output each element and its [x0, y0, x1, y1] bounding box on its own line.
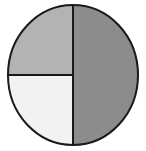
segment-right-half [73, 5, 138, 145]
fraction-circle-diagram [0, 0, 146, 151]
circle-diagram-svg [0, 0, 146, 151]
segment-lower-left-quadrant [8, 75, 73, 145]
segment-upper-left-quadrant [8, 5, 73, 75]
